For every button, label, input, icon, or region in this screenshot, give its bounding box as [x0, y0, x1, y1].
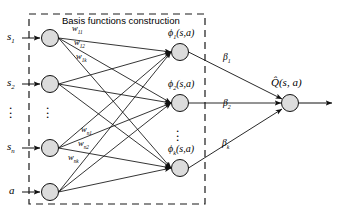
beta-label-1-subscript: 1 [228, 58, 231, 64]
weight-label-wn1: wn1 [81, 125, 92, 134]
weight-label-w1k-subscript: 1k [82, 57, 87, 63]
beta-label-k: βk [222, 139, 229, 149]
beta-label-1: β1 [223, 53, 231, 63]
basis-label-phi1: ϕ1(s,a) [168, 28, 194, 38]
input-label-sn-subscript: n [11, 147, 14, 154]
input-label-s2: s2 [7, 77, 15, 88]
basis-label-phik-subscript: k [173, 149, 176, 156]
beta-label-2: β2 [223, 99, 231, 109]
input-arrows [22, 38, 40, 192]
beta-label-2-subscript: 2 [228, 104, 231, 110]
input-label-s1: s1 [7, 31, 15, 42]
hidden-node-phi2 [172, 95, 189, 112]
input-label-sn: sn [7, 141, 15, 152]
input-label-a: a [9, 185, 15, 196]
weight-label-w11-subscript: 11 [78, 29, 83, 35]
input-node-s2 [42, 76, 59, 93]
input-label-s1-subscript: 1 [11, 37, 14, 44]
input-node-a [42, 184, 59, 201]
hidden-to-output-edges [189, 52, 283, 168]
input-label-s2-subscript: 2 [11, 83, 14, 90]
input-to-hidden-edges [59, 38, 172, 192]
input-node-s1 [42, 30, 59, 47]
output-label-q: Q̂(s, a) [271, 77, 302, 88]
weight-label-wn1-subscript: n1 [87, 130, 92, 136]
input-label-ellipsis: ... [9, 103, 12, 117]
basis-label-phi2: ϕ2(s,a) [168, 79, 194, 89]
basis-label-phi1-subscript: 1 [173, 33, 176, 40]
basis-label-phi2-subscript: 2 [173, 84, 176, 91]
weight-label-wnk: wnk [68, 153, 79, 162]
input-node-ellipsis: ... [46, 103, 49, 117]
weight-label-wn2: wn2 [78, 139, 89, 148]
weight-label-w12-subscript: 12 [80, 43, 85, 49]
weight-label-w1k: w1k [76, 52, 87, 61]
input-node-sn [42, 140, 59, 157]
hidden-node-phik [172, 160, 189, 177]
hidden-node-phi1 [172, 44, 189, 61]
weight-label-w11: w11 [72, 24, 83, 33]
output-node-q [282, 95, 299, 112]
basis-label-phik: ϕk(s,a) [168, 144, 194, 154]
weight-label-wnk-subscript: nk [74, 158, 79, 164]
weight-label-wn2-subscript: n2 [84, 144, 89, 150]
hidden-node-ellipsis: ... [176, 126, 179, 140]
input-layer-nodes [42, 30, 59, 201]
hidden-layer-nodes [172, 44, 189, 177]
diagram-canvas: Basis functions construction s1 s2 sn a … [0, 0, 340, 219]
beta-label-k-subscript: k [227, 144, 230, 150]
weight-label-w12: w12 [74, 38, 85, 47]
